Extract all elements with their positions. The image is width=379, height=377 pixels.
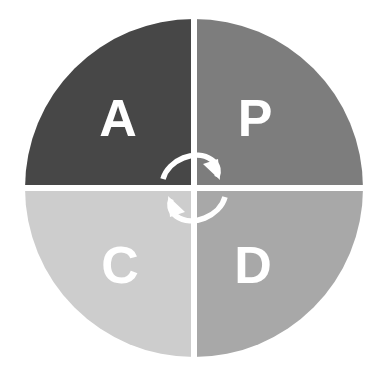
quadrant-label-act: A	[99, 89, 137, 147]
pdca-svg-canvas: A P C D	[0, 0, 379, 377]
quadrant-label-plan: P	[238, 89, 273, 147]
quadrant-label-do: D	[234, 236, 272, 294]
pdca-diagram: A P C D	[0, 0, 379, 377]
quadrant-label-check: C	[101, 236, 139, 294]
